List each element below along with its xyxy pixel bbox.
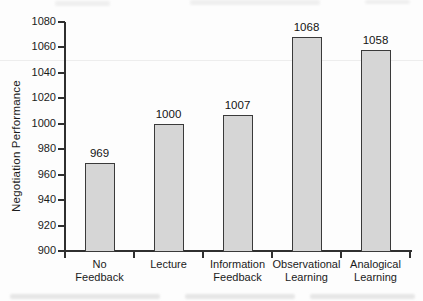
category-label-line: Learning (334, 271, 418, 284)
y-tick (58, 225, 65, 227)
y-tick-label: 1080 (16, 15, 56, 27)
bar-chart-figure: Negotiation Performance 9009209409609801… (0, 0, 423, 301)
category-label-line: Feedback (58, 271, 142, 284)
y-tick-label: 1060 (16, 40, 56, 52)
x-tick (133, 251, 135, 258)
x-tick (64, 251, 66, 258)
bar-value-label: 1000 (144, 108, 194, 120)
y-tick (58, 123, 65, 125)
plot-area: 90092094096098010001020104010601080969No… (0, 0, 423, 301)
y-tick (58, 199, 65, 201)
y-tick-label: 1000 (16, 117, 56, 129)
y-tick-label: 1040 (16, 66, 56, 78)
y-tick-label: 920 (16, 219, 56, 231)
bar-value-label: 1068 (282, 21, 332, 33)
bar-no-feedback (85, 163, 115, 252)
y-tick (58, 21, 65, 23)
y-tick (58, 97, 65, 99)
category-label: AnalogicalLearning (334, 258, 418, 284)
y-tick-label: 960 (16, 168, 56, 180)
bar-information-feedback (223, 115, 253, 252)
bar-value-label: 969 (75, 147, 125, 159)
bar-value-label: 1058 (351, 34, 401, 46)
bar-value-label: 1007 (213, 99, 263, 111)
y-tick (58, 174, 65, 176)
y-tick (58, 72, 65, 74)
x-tick (202, 251, 204, 258)
bar-analogical-learning (361, 50, 391, 252)
y-tick (58, 46, 65, 48)
bar-observational-learning (292, 37, 322, 252)
y-tick-label: 1020 (16, 91, 56, 103)
category-label-line: Analogical (334, 258, 418, 271)
bar-lecture (154, 124, 184, 252)
y-tick-label: 940 (16, 193, 56, 205)
y-tick-label: 900 (16, 244, 56, 256)
y-tick-label: 980 (16, 142, 56, 154)
x-tick (271, 251, 273, 258)
x-tick (340, 251, 342, 258)
y-tick (58, 148, 65, 150)
x-tick (409, 251, 411, 258)
